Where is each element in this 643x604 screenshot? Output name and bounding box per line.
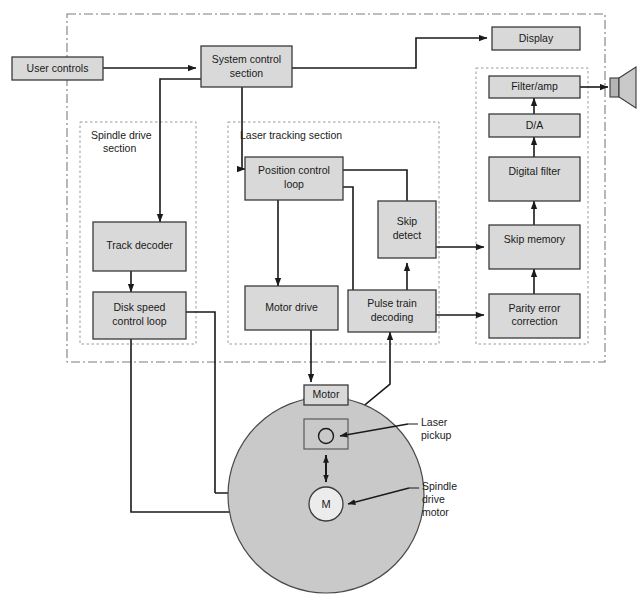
block-label-skip-detect-line2: detect [393,229,422,241]
section-label-spindle-line2: section [103,142,136,154]
block-label-filter-amp: Filter/amp [511,80,558,92]
link-pulse-train-to-position [343,187,353,300]
diagram-canvas: Spindle drive section Laser tracking sec… [0,0,643,604]
block-label-parity-line2: correction [511,315,557,327]
block-motor[interactable]: Motor [304,385,348,405]
block-position-control-loop[interactable]: Position control loop [245,157,343,200]
block-label-user-controls: User controls [27,62,89,74]
block-label-position-line1: Position control [258,164,330,176]
block-label-display: Display [519,32,554,44]
block-label-disk-speed-line1: Disk speed [114,301,166,313]
block-skip-detect[interactable]: Skip detect [378,201,436,258]
block-track-decoder[interactable]: Track decoder [93,222,186,271]
block-label-motor-drive: Motor drive [265,301,318,313]
block-label-system-control-line1: System control [212,53,281,65]
pickup-carriage [304,419,348,449]
block-label-track-decoder: Track decoder [106,239,173,251]
speaker-icon [610,67,636,108]
block-label-system-control-line2: section [230,67,263,79]
cd-player-block-diagram: Spindle drive section Laser tracking sec… [0,0,643,604]
block-digital-filter[interactable]: Digital filter [489,157,580,201]
link-system-to-track-decoder [160,79,201,222]
block-disk-speed-control-loop[interactable]: Disk speed control loop [93,292,186,339]
block-label-parity-line1: Parity error [509,302,561,314]
block-label-skip-detect-line1: Skip [397,215,418,227]
block-filter-amp[interactable]: Filter/amp [489,76,580,98]
block-label-motor: Motor [313,388,340,400]
section-label-spindle-line1: Spindle drive [91,129,152,141]
block-parity-error-correction[interactable]: Parity error correction [489,294,580,338]
link-feedback-to-disk-speed [186,312,215,493]
block-label-skip-memory: Skip memory [504,233,566,245]
annotation-laser-pickup-line1: Laser [421,416,448,428]
block-da[interactable]: D/A [489,114,580,137]
annotation-laser-pickup-line2: pickup [421,429,452,441]
block-display[interactable]: Display [492,27,580,50]
block-label-da: D/A [526,119,544,131]
block-pulse-train-decoding[interactable]: Pulse train decoding [348,290,436,332]
block-label-position-line2: loop [284,178,304,190]
section-label-laser: Laser tracking section [240,129,342,141]
block-label-digital-filter: Digital filter [509,165,561,177]
block-user-controls[interactable]: User controls [12,57,103,80]
block-label-disk-speed-line2: control loop [112,315,166,327]
block-label-pulse-train-line1: Pulse train [367,297,417,309]
block-label-pulse-train-line2: decoding [371,311,414,323]
link-system-to-display [292,38,487,68]
block-system-control-section[interactable]: System control section [201,46,292,87]
annotation-spindle-motor-line3: motor [422,506,449,518]
block-skip-memory[interactable]: Skip memory [489,225,580,269]
block-motor-drive[interactable]: Motor drive [245,286,338,330]
annotation-spindle-motor-line1: Spindle [422,480,457,492]
annotation-spindle-motor-line2: drive [422,493,445,505]
spindle-hub-label: M [321,498,330,510]
